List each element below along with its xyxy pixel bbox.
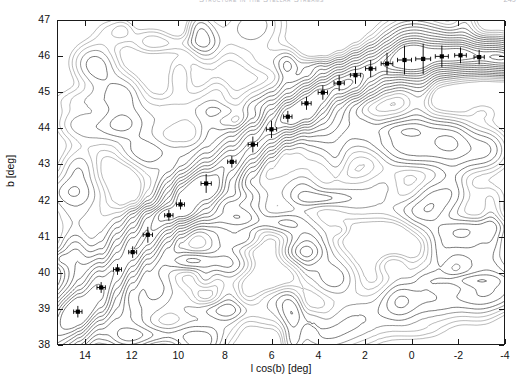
x-axis-tick [178,339,179,344]
x-axis-tick [412,21,413,26]
ridge-data-point [416,44,431,74]
y-tick-label: 43 [28,157,50,169]
x-axis-tick [458,21,459,26]
y-tick-label: 46 [28,49,50,61]
x-tick-label: 2 [352,349,378,361]
x-tick-label: 12 [119,349,145,361]
x-tick-label: 10 [165,349,191,361]
data-marker [353,73,357,77]
data-marker [230,160,234,164]
x-axis-tick [318,339,319,344]
data-marker [337,81,341,85]
y-axis-label: b [deg] [4,141,16,201]
y-tick-label: 41 [28,230,50,242]
x-axis-tick [225,339,226,344]
x-axis-tick [85,339,86,344]
y-tick-label: 39 [28,302,50,314]
data-marker [304,101,308,105]
data-marker [131,250,135,254]
x-tick-label: 0 [399,349,425,361]
x-axis-tick [272,21,273,26]
x-axis-label: l cos(b) [deg] [57,362,505,374]
x-axis-tick [132,21,133,26]
ridge-data-point [114,264,122,275]
data-marker [269,127,273,131]
data-marker [286,115,290,119]
data-marker [204,181,208,185]
ridge-data-point [143,227,152,243]
y-axis-tick [58,128,63,129]
x-axis-tick [505,339,506,344]
y-axis-tick [499,201,504,202]
x-tick-label: 8 [212,349,238,361]
x-tick-label: 6 [259,349,285,361]
data-marker [421,57,425,61]
data-marker [251,142,255,146]
ridge-data-point [201,174,211,193]
plot-area [57,20,505,345]
data-marker [146,233,150,237]
y-axis-tick [499,56,504,57]
x-tick-label: 4 [305,349,331,361]
y-axis-tick [58,164,63,165]
x-axis-tick [412,339,413,344]
ridge-data-point [228,156,236,168]
data-marker [458,53,462,57]
ridge-data-point [366,60,376,77]
data-marker [402,58,406,62]
y-axis-tick [58,201,63,202]
ridge-data-point [177,199,185,209]
x-axis-tick [458,339,459,344]
y-tick-label: 47 [28,13,50,25]
x-axis-tick [178,21,179,26]
data-marker [178,202,182,206]
ridge-data-point [266,121,276,138]
x-axis-tick [272,339,273,344]
x-axis-tick [505,21,506,26]
x-axis-tick [85,21,86,26]
y-axis-tick [58,92,63,93]
y-axis-tick [499,128,504,129]
ridge-data-point [318,85,327,99]
data-point-layer [58,21,505,345]
data-marker [99,285,103,289]
y-axis-tick [58,237,63,238]
ridge-data-point [350,67,360,84]
y-axis-tick [58,309,63,310]
x-tick-label: -4 [492,349,518,361]
ridge-data-point [248,137,257,153]
ridge-data-point [165,210,173,221]
stream-contour-figure: 3839404142434445464714121086420-2-4 b [d… [0,0,523,383]
y-axis-tick [499,237,504,238]
y-tick-label: 40 [28,266,50,278]
data-marker [385,62,389,66]
y-axis-tick [499,345,504,346]
x-axis-tick [365,339,366,344]
y-axis-tick [499,20,504,21]
ridge-data-point [284,111,292,123]
ridge-data-point [398,46,412,75]
y-axis-tick [58,345,63,346]
y-axis-tick [499,273,504,274]
y-axis-tick [499,92,504,93]
x-tick-label: -2 [445,349,471,361]
y-axis-tick [499,309,504,310]
data-marker [167,213,171,217]
data-marker [321,90,325,94]
ridge-data-point [129,246,137,258]
x-tick-label: 14 [72,349,98,361]
data-marker [76,310,80,314]
ridge-data-point [455,47,467,63]
y-axis-tick [58,56,63,57]
y-tick-label: 45 [28,85,50,97]
ridge-data-point [334,75,344,91]
y-tick-label: 38 [28,338,50,350]
data-marker [115,267,119,271]
y-tick-label: 44 [28,121,50,133]
x-axis-tick [225,21,226,26]
y-axis-tick [58,273,63,274]
x-axis-tick [132,339,133,344]
ridge-data-point [435,46,448,68]
ridge-data-point [474,50,484,64]
y-axis-tick [499,164,504,165]
